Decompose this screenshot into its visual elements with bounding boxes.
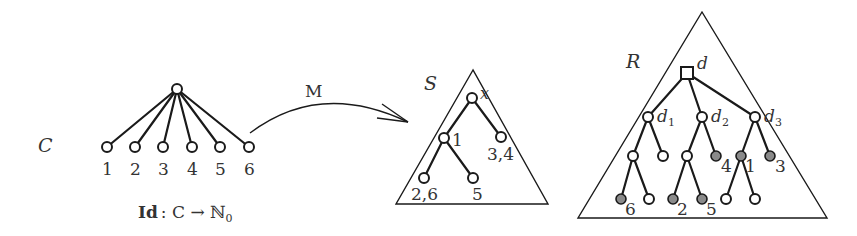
tree-r-leaf-label: 1 — [745, 156, 756, 176]
tree-r-node — [750, 194, 760, 204]
tree-c-leaf-node — [187, 142, 197, 152]
tree-s-node — [419, 173, 429, 183]
tree-s-node — [468, 173, 478, 183]
tree-r-d2-label: d2 — [711, 106, 729, 129]
tree-s-node-label: 5 — [472, 184, 483, 204]
tree-c-leaf-label: 4 — [187, 159, 198, 179]
tree-c: C 1 2 3 4 5 6 Id: C → ℕ0 — [38, 84, 255, 225]
tree-r-filled-node — [711, 151, 721, 161]
tree-c-edges — [107, 89, 249, 147]
tree-c-label: C — [38, 134, 53, 156]
tree-r-d3-label: d3 — [764, 106, 782, 129]
tree-c-leaf-node — [102, 142, 112, 152]
tree-r: R d d1 d2 d3 — [578, 12, 827, 219]
tree-r-leaf-label: 2 — [677, 199, 688, 219]
tree-r-node — [721, 194, 731, 204]
tree-c-leaf-node — [158, 142, 168, 152]
tree-r-node-d1 — [643, 112, 653, 122]
tree-c-leaf-label: 2 — [130, 159, 141, 179]
tree-r-node — [658, 151, 668, 161]
mapping-arrow: M — [250, 81, 408, 133]
arrow-curve — [250, 103, 408, 133]
tree-r-node — [644, 194, 654, 204]
tree-r-root-square — [681, 67, 693, 79]
tree-r-root-label: d — [697, 53, 708, 73]
diagram-canvas: C 1 2 3 4 5 6 Id: C → ℕ0 M — [0, 0, 857, 236]
tree-c-leaf-label: 5 — [215, 159, 226, 179]
tree-r-node-d2 — [697, 112, 707, 122]
tree-s-root-node — [467, 93, 477, 103]
tree-c-leaf-label: 3 — [158, 159, 169, 179]
tree-s-node — [439, 133, 449, 143]
tree-c-leaf-node — [244, 142, 254, 152]
tree-s-node-label: 3,4 — [487, 144, 514, 164]
tree-s-node — [496, 132, 506, 142]
id-function-label: Id: C → ℕ0 — [138, 202, 233, 225]
tree-s: S x 1 3,4 2,6 5 — [396, 70, 548, 204]
tree-r-filled-node — [765, 151, 775, 161]
tree-c-leaf-node — [130, 142, 140, 152]
tree-r-node — [682, 151, 692, 161]
tree-s-node-label: 1 — [452, 130, 463, 150]
tree-s-root-label: x — [480, 84, 489, 103]
tree-r-leaf-label: 3 — [775, 156, 786, 176]
tree-c-leaf-label: 1 — [102, 159, 113, 179]
tree-s-label: S — [424, 72, 437, 94]
tree-c-root-node — [172, 84, 182, 94]
tree-r-label: R — [625, 50, 640, 72]
tree-r-leaf-label: 5 — [706, 199, 717, 219]
tree-c-leaf-node — [215, 142, 225, 152]
arrow-label-m: M — [305, 81, 322, 101]
tree-r-node — [628, 151, 638, 161]
tree-s-node-label: 2,6 — [411, 184, 438, 204]
tree-c-caption: Id: C → ℕ0 — [138, 202, 233, 225]
tree-r-d1-label: d1 — [657, 106, 675, 129]
tree-r-node-d3 — [750, 112, 760, 122]
tree-r-leaf-label: 4 — [721, 156, 732, 176]
tree-c-leaf-label: 6 — [244, 159, 255, 179]
tree-r-leaf-label: 6 — [625, 199, 636, 219]
